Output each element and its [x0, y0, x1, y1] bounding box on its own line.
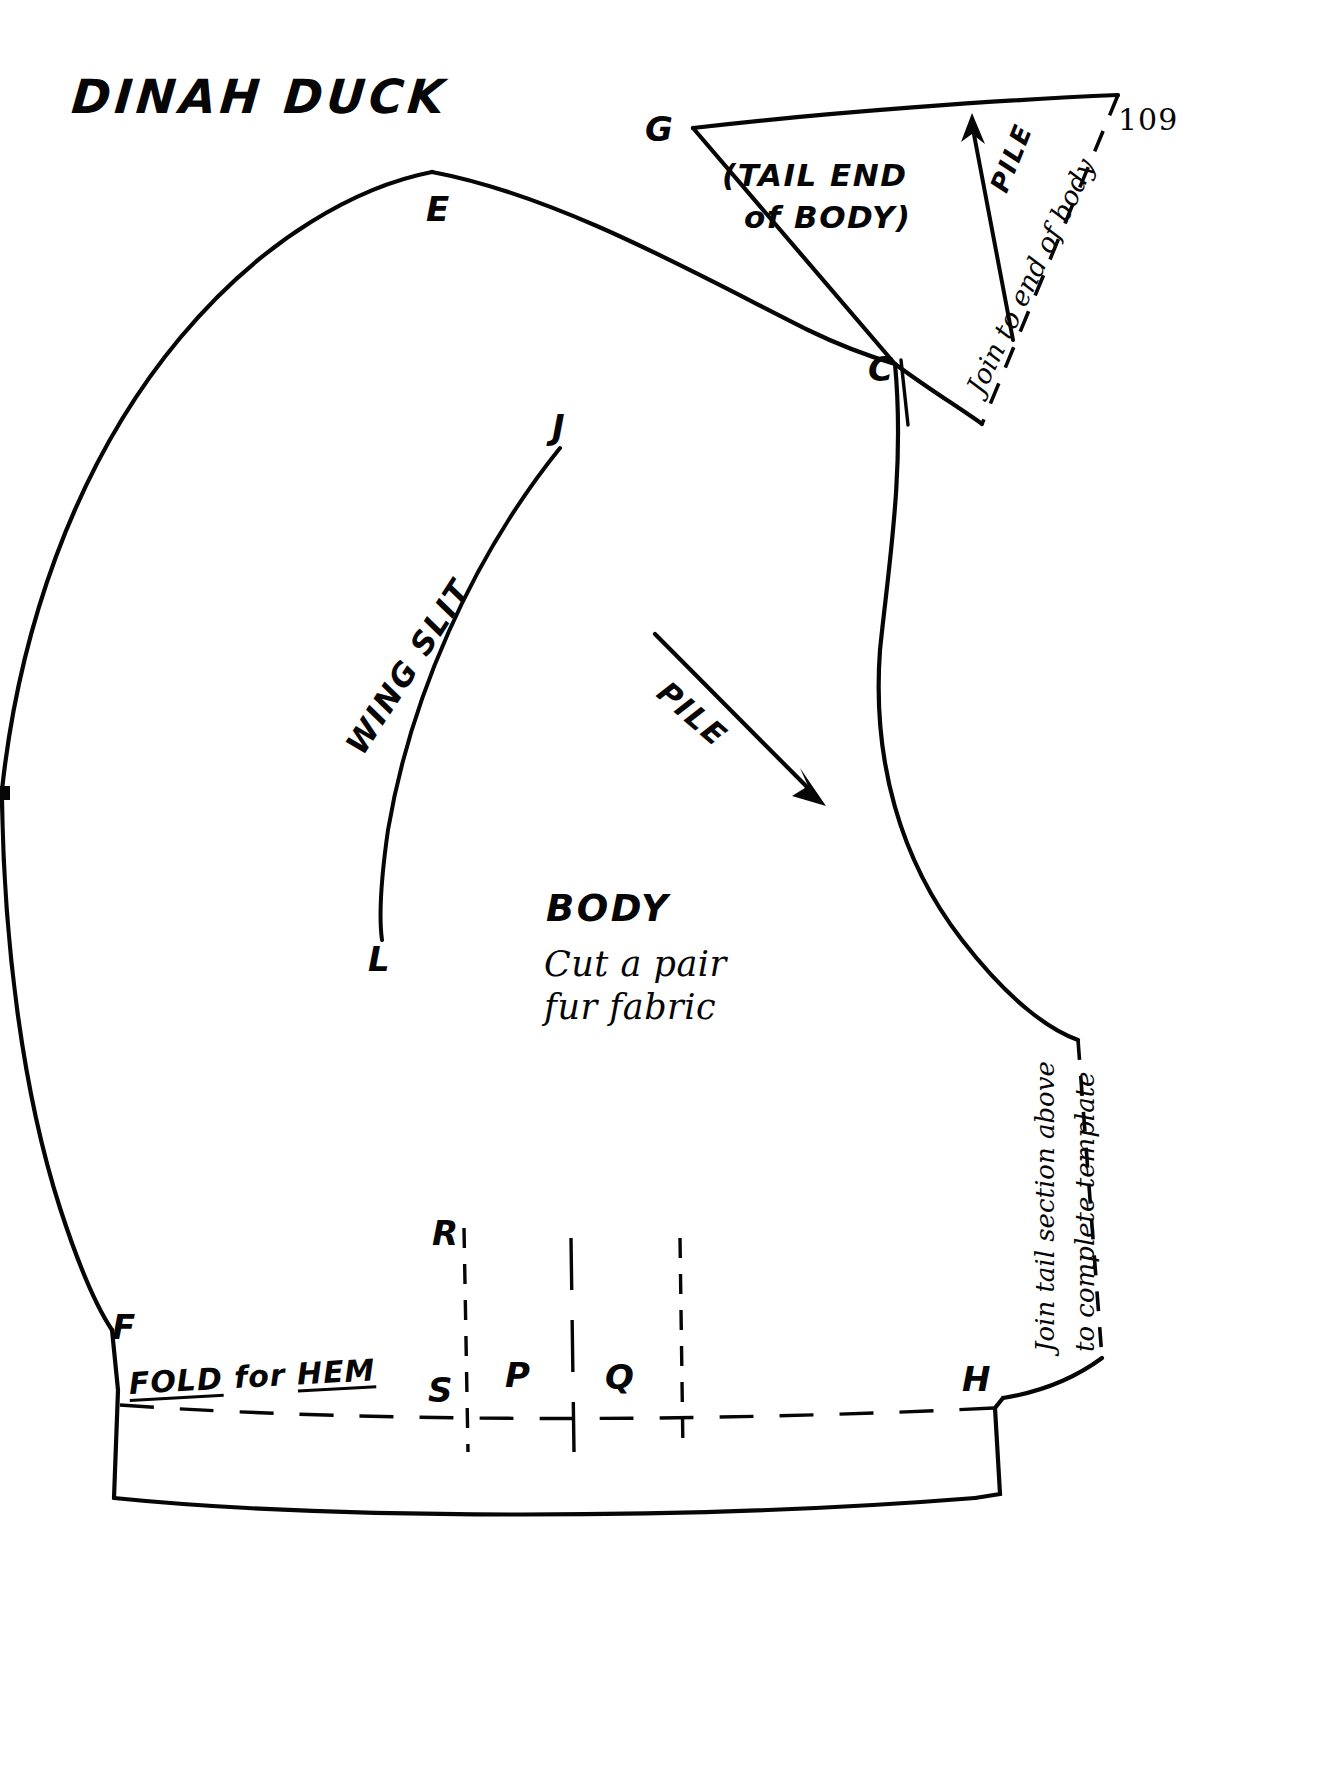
tail-piece-label-line1: (TAIL END [722, 157, 907, 193]
tail-top-edge [693, 95, 1118, 128]
body-instruction-line2: fur fabric [544, 986, 727, 1029]
page-number: 109 [1118, 104, 1178, 136]
point-label-q: Q [605, 1360, 634, 1396]
hem-bottom-edge [114, 1498, 975, 1515]
point-label-g: G [645, 112, 673, 148]
tail-piece-label-line2: of BODY) [718, 197, 912, 239]
body-instruction-line1: Cut a pair [544, 943, 727, 986]
point-label-p: P [505, 1358, 530, 1394]
left-bleed-mark [0, 786, 10, 800]
fold-for-hem-word-for: for [222, 1357, 298, 1396]
body-piece-label: BODY [546, 890, 670, 929]
page-title: DINAH DUCK [70, 72, 450, 121]
point-label-r: R [432, 1216, 458, 1252]
point-label-l: L [368, 942, 390, 978]
template-join-note-line2: to complete template [1072, 1072, 1099, 1352]
fold-for-hem-word-hem: HEM [296, 1352, 376, 1391]
gusset-line-q-right [680, 1238, 683, 1452]
fold-for-hem-word-fold: FOLD [128, 1361, 224, 1401]
point-label-s: S [428, 1373, 453, 1409]
body-piece-instructions: Cut a pair fur fabric [544, 943, 727, 1028]
point-label-h: H [962, 1362, 990, 1398]
hem-right-connector [1003, 1358, 1102, 1398]
tail-piece-label: (TAIL END of BODY) [718, 155, 912, 239]
point-label-e: E [426, 192, 449, 228]
point-label-f: F [112, 1310, 135, 1346]
point-label-c: C [868, 352, 893, 388]
hem-left-edge [112, 1330, 118, 1498]
body-right-curve [879, 364, 1078, 1040]
fold-hem-dashed-line [120, 1405, 995, 1418]
template-join-note-line1: Join tail section above [1032, 1061, 1059, 1352]
point-label-j: J [552, 410, 565, 446]
pattern-sheet: DINAH DUCK 109 E G C J L F R S P Q H (TA… [0, 0, 1342, 1787]
gusset-line-rs [464, 1228, 468, 1452]
body-left-lower-curve [2, 800, 112, 1330]
pattern-line-art [0, 0, 1342, 1787]
hem-right-edge [975, 1398, 1003, 1498]
